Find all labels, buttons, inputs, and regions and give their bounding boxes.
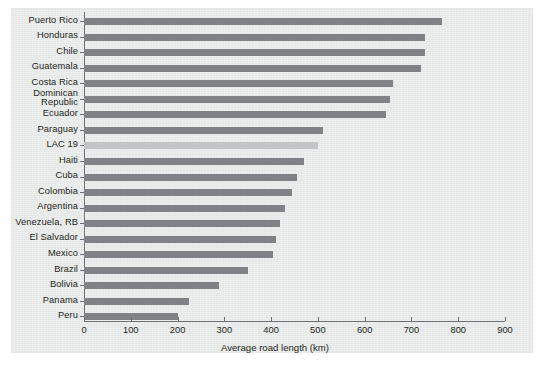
x-axis-tick-mark xyxy=(131,317,132,321)
y-axis-tick-label: LAC 19 xyxy=(0,140,78,150)
y-axis-tick-label: Panama xyxy=(0,296,78,306)
bar xyxy=(84,251,273,258)
y-axis-tick-label: Peru xyxy=(0,311,78,321)
x-axis-tick-label: 100 xyxy=(123,325,139,335)
y-axis-tick-mark xyxy=(80,83,84,84)
y-axis-line xyxy=(84,12,85,321)
bar xyxy=(84,34,425,41)
y-axis-tick-label: Haiti xyxy=(0,156,78,166)
y-axis-tick-label: Costa Rica xyxy=(0,78,78,88)
bar xyxy=(84,80,393,87)
y-axis-tick-label: Mexico xyxy=(0,249,78,259)
bar xyxy=(84,236,276,243)
y-axis-tick-mark xyxy=(80,52,84,53)
bar xyxy=(84,220,280,227)
x-axis-tick-label: 800 xyxy=(450,325,466,335)
bar xyxy=(84,174,297,181)
x-axis-tick-mark xyxy=(318,317,319,321)
y-axis-tick-mark xyxy=(80,177,84,178)
bar xyxy=(84,18,442,25)
y-axis-tick-mark xyxy=(80,208,84,209)
y-axis-tick-mark xyxy=(80,145,84,146)
bar xyxy=(84,282,219,289)
x-axis-tick-mark xyxy=(458,317,459,321)
x-axis-tick-label: 500 xyxy=(310,325,326,335)
y-axis-tick-mark xyxy=(80,223,84,224)
bar xyxy=(84,189,292,196)
bar xyxy=(84,127,323,134)
bar xyxy=(84,142,318,149)
y-axis-tick-label: Honduras xyxy=(0,31,78,41)
y-axis-tick-mark xyxy=(80,270,84,271)
y-axis-tick-label: Venezuela, RB xyxy=(0,218,78,228)
y-axis-tick-mark xyxy=(80,99,84,100)
x-axis-tick-mark xyxy=(505,317,506,321)
y-axis-tick-label: Argentina xyxy=(0,202,78,212)
x-axis-tick-mark xyxy=(178,317,179,321)
y-axis-tick-label: Guatemala xyxy=(0,62,78,72)
y-axis-tick-mark xyxy=(80,254,84,255)
x-axis-tick-label: 400 xyxy=(263,325,279,335)
y-axis-tick-label: Brazil xyxy=(0,265,78,275)
y-axis-tick-mark xyxy=(80,301,84,302)
x-axis-tick-mark xyxy=(365,317,366,321)
y-axis-tick-label: Paraguay xyxy=(0,125,78,135)
bar xyxy=(84,111,386,118)
x-axis-line xyxy=(84,321,505,322)
y-axis-tick-label: Cuba xyxy=(0,171,78,181)
y-axis-tick-label: Chile xyxy=(0,47,78,57)
y-axis-tick-mark xyxy=(80,68,84,69)
chart-plot-area: Puerto RicoHondurasChileGuatemalaCosta R… xyxy=(0,0,550,370)
bar xyxy=(84,65,421,72)
x-axis-tick-mark xyxy=(224,317,225,321)
x-axis-tick-label: 200 xyxy=(170,325,186,335)
bar xyxy=(84,298,189,305)
x-axis-tick-label: 0 xyxy=(81,325,86,335)
y-axis-tick-mark xyxy=(80,114,84,115)
y-axis-tick-mark xyxy=(80,239,84,240)
bar xyxy=(84,96,390,103)
bar xyxy=(84,205,285,212)
bar xyxy=(84,158,304,165)
x-axis-tick-label: 700 xyxy=(404,325,420,335)
x-axis-title: Average road length (km) xyxy=(0,342,550,353)
x-axis-tick-mark xyxy=(411,317,412,321)
y-axis-tick-label: El Salvador xyxy=(0,233,78,243)
y-axis-tick-mark xyxy=(80,192,84,193)
y-axis-tick-mark xyxy=(80,21,84,22)
y-axis-tick-label: Colombia xyxy=(0,187,78,197)
y-axis-tick-label: Dominican Republic xyxy=(0,89,78,108)
x-axis-tick-label: 300 xyxy=(217,325,233,335)
x-axis-tick-label: 600 xyxy=(357,325,373,335)
y-axis-tick-mark xyxy=(80,130,84,131)
x-axis-tick-label: 900 xyxy=(497,325,513,335)
chart-figure: Puerto RicoHondurasChileGuatemalaCosta R… xyxy=(0,0,550,370)
y-axis-tick-label: Ecuador xyxy=(0,109,78,119)
y-axis-tick-mark xyxy=(80,37,84,38)
x-axis-tick-mark xyxy=(271,317,272,321)
bar xyxy=(84,267,248,274)
bar xyxy=(84,49,425,56)
x-axis-tick-mark xyxy=(84,317,85,321)
y-axis-tick-label: Puerto Rico xyxy=(0,16,78,26)
y-axis-tick-label: Bolivia xyxy=(0,280,78,290)
y-axis-tick-mark xyxy=(80,285,84,286)
y-axis-tick-mark xyxy=(80,161,84,162)
